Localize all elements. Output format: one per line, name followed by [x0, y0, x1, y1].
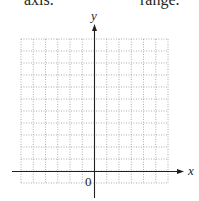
y-axis-arrow-icon — [92, 24, 97, 31]
coordinate-grid — [0, 0, 199, 201]
y-axis-label: y — [91, 9, 97, 22]
x-axis-arrow-icon — [177, 169, 184, 174]
origin-label: 0 — [85, 175, 92, 188]
x-axis-label: x — [188, 164, 194, 177]
